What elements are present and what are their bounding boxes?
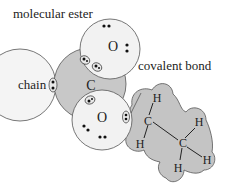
h5-label: H (174, 161, 183, 175)
electron-pair-o-ethyl (123, 111, 130, 123)
oxygen-top-label: O (108, 39, 118, 54)
ethyl-c2-label: C (179, 136, 187, 150)
title-label: molecular ester (13, 6, 93, 21)
h4-label: H (203, 153, 212, 167)
ethyl-c1-label: C (144, 114, 152, 128)
h2-label: H (136, 137, 145, 151)
carbon-label: C (86, 78, 95, 93)
covalent-bond-label: covalent bond (138, 58, 212, 73)
h3-label: H (195, 115, 204, 129)
ester-diagram: C O O C C H H H H H molecular ester chai… (0, 0, 229, 192)
electron-pair-chain-c (49, 78, 57, 92)
oxygen-bottom-label: O (97, 110, 107, 125)
chain-label: chain (18, 77, 47, 92)
h1-label: H (153, 91, 162, 105)
